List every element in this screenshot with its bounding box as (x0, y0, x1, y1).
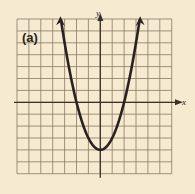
panel-label: (a) (22, 30, 38, 45)
y-axis-label: y (96, 8, 100, 18)
x-axis-label: x (182, 97, 186, 107)
